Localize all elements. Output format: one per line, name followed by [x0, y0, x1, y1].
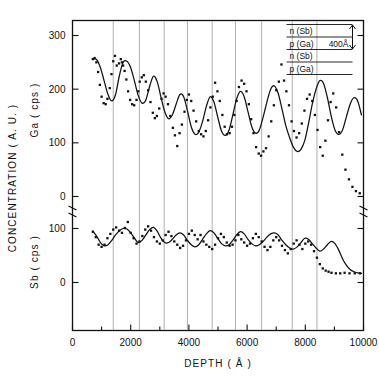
data-point: [118, 230, 120, 232]
data-point: [255, 233, 257, 235]
y-axis-title-ga: Ga ( cps ): [29, 83, 40, 138]
data-point: [226, 241, 228, 243]
data-point: [258, 152, 260, 154]
data-point: [270, 120, 272, 122]
soa-depth-profile-chart: 020004000600080001000001002003000100DEPT…: [0, 0, 379, 377]
data-point: [202, 240, 204, 242]
data-point: [267, 135, 269, 137]
data-point: [275, 89, 277, 91]
y-axis-title-outer: CONCENTRATION ( A. U. ): [7, 104, 18, 252]
x-tick-label-1: 2000: [120, 337, 143, 348]
data-point: [191, 230, 193, 232]
data-point: [301, 122, 303, 124]
data-point: [181, 123, 183, 125]
data-point: [97, 71, 99, 73]
inset-layer-label-3: p (Ga): [290, 64, 314, 74]
data-point: [307, 240, 309, 242]
inset-dimension-label: 400Å: [329, 39, 349, 49]
data-point: [93, 57, 95, 59]
data-point: [100, 96, 102, 98]
data-point: [220, 233, 222, 235]
data-point: [250, 118, 252, 120]
data-point: [240, 79, 242, 81]
data-point: [351, 186, 353, 188]
data-point: [237, 234, 239, 236]
data-point: [141, 76, 143, 78]
data-point: [226, 133, 228, 135]
data-point: [115, 226, 117, 228]
data-point: [173, 240, 175, 242]
data-point: [95, 236, 97, 238]
data-point: [240, 238, 242, 240]
data-point: [231, 126, 233, 128]
data-point: [176, 244, 178, 246]
data-point: [262, 150, 264, 152]
data-point: [106, 98, 108, 100]
data-point: [272, 239, 274, 241]
data-point: [109, 87, 111, 89]
x-tick-label-0: 0: [70, 337, 76, 348]
data-point: [223, 236, 225, 238]
data-point: [120, 58, 122, 60]
data-point: [285, 90, 287, 92]
data-point: [183, 111, 185, 113]
data-point: [198, 130, 200, 132]
data-point: [314, 114, 316, 116]
data-point: [217, 237, 219, 239]
data-point: [112, 228, 114, 230]
data-point: [129, 99, 131, 101]
data-point: [188, 93, 190, 95]
data-point: [141, 235, 143, 237]
data-point: [359, 272, 361, 274]
data-point: [338, 131, 340, 133]
data-point: [355, 190, 357, 192]
data-point: [248, 103, 250, 105]
data-point: [132, 237, 134, 239]
data-point: [214, 82, 216, 84]
data-point: [322, 267, 324, 269]
data-point: [319, 263, 321, 265]
data-point: [200, 133, 202, 135]
data-point: [196, 238, 198, 240]
data-point: [359, 192, 361, 194]
data-point: [238, 86, 240, 88]
data-point: [327, 271, 329, 273]
data-point: [288, 104, 290, 106]
data-point: [205, 130, 207, 132]
data-point: [263, 246, 265, 248]
data-point: [298, 244, 300, 246]
data-point: [258, 236, 260, 238]
data-point: [147, 225, 149, 227]
data-point: [252, 237, 254, 239]
data-point: [255, 146, 257, 148]
data-point: [273, 104, 275, 106]
data-point: [124, 227, 126, 229]
data-point: [167, 103, 169, 105]
data-point: [139, 81, 141, 83]
data-point: [109, 233, 111, 235]
data-point: [112, 60, 114, 62]
data-point: [164, 234, 166, 236]
data-point: [281, 245, 283, 247]
data-point: [122, 64, 124, 66]
data-point: [290, 248, 292, 250]
data-point: [164, 96, 166, 98]
data-point: [167, 231, 169, 233]
data-point: [309, 93, 311, 95]
data-point: [260, 155, 262, 157]
data-point: [185, 239, 187, 241]
data-point: [133, 104, 135, 106]
data-point: [123, 70, 125, 72]
data-point: [316, 257, 318, 259]
data-point: [219, 100, 221, 102]
data-point: [228, 132, 230, 134]
data-point: [118, 62, 120, 64]
data-point: [190, 100, 192, 102]
data-point: [192, 109, 194, 111]
data-point: [221, 114, 223, 116]
x-axis-title: DEPTH ( Å ): [184, 357, 252, 369]
data-point: [235, 100, 237, 102]
data-point: [216, 90, 218, 92]
data-point: [160, 98, 162, 100]
data-point: [188, 233, 190, 235]
